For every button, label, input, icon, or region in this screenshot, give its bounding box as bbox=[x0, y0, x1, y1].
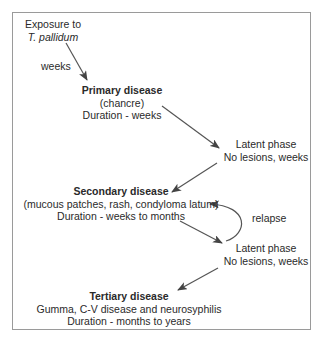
edge-label-relapse: relapse bbox=[252, 212, 286, 224]
node-tertiary-disease: Tertiary disease Gumma, C-V disease and … bbox=[36, 290, 221, 328]
tertiary-detail: Gumma, C-V disease and neurosyphilis bbox=[36, 303, 221, 316]
tertiary-title: Tertiary disease bbox=[36, 290, 221, 303]
secondary-detail: (mucous patches, rash, condyloma latum) bbox=[24, 198, 219, 211]
secondary-title: Secondary disease bbox=[24, 185, 219, 198]
node-exposure: Exposure to T. pallidum bbox=[25, 18, 81, 43]
primary-duration: Duration - weeks bbox=[82, 109, 163, 122]
node-latent-phase-2: Latent phase No lesions, weeks bbox=[224, 242, 309, 267]
arrow-primary-to-latent1 bbox=[162, 106, 219, 148]
arrow-secondary-to-latent2 bbox=[180, 221, 222, 243]
edge-label-weeks: weeks bbox=[41, 60, 71, 72]
latent1-detail: No lesions, weeks bbox=[224, 151, 309, 164]
secondary-duration: Duration - weeks to months bbox=[24, 210, 219, 223]
latent1-title: Latent phase bbox=[224, 138, 309, 151]
exposure-organism: T. pallidum bbox=[25, 31, 81, 44]
arrows-layer bbox=[0, 0, 317, 337]
node-secondary-disease: Secondary disease (mucous patches, rash,… bbox=[24, 185, 219, 223]
latent2-title: Latent phase bbox=[224, 242, 309, 255]
exposure-line1: Exposure to bbox=[25, 18, 81, 31]
arrow-latent2-to-tertiary bbox=[178, 268, 218, 290]
primary-detail: (chancre) bbox=[82, 97, 163, 110]
node-latent-phase-1: Latent phase No lesions, weeks bbox=[224, 138, 309, 163]
primary-title: Primary disease bbox=[82, 84, 163, 97]
node-primary-disease: Primary disease (chancre) Duration - wee… bbox=[82, 84, 163, 122]
tertiary-duration: Duration - months to years bbox=[36, 315, 221, 328]
latent2-detail: No lesions, weeks bbox=[224, 255, 309, 268]
